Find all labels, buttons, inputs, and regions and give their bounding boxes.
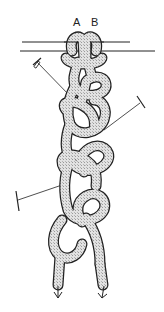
- cord-label-a: A: [73, 17, 80, 28]
- cord-label-b: B: [91, 17, 98, 28]
- knot-diagram: [0, 0, 164, 312]
- knot-cords: [53, 37, 108, 285]
- pin-lower-left: [16, 185, 62, 211]
